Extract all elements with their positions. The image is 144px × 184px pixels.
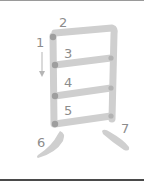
- stroke-3-start: [52, 62, 58, 68]
- stroke-1-start: [50, 34, 56, 40]
- stroke-label-3: 3: [64, 46, 72, 61]
- arrow-down-icon: [39, 52, 45, 77]
- stroke-label-5: 5: [64, 103, 72, 118]
- stroke-label-7: 7: [121, 121, 129, 136]
- stroke-label-2: 2: [59, 15, 67, 30]
- stroke-label-4: 4: [64, 75, 72, 90]
- stroke-5-end: [108, 113, 113, 118]
- stroke-1: [53, 36, 54, 124]
- stroke-4-start: [52, 93, 58, 99]
- kanji-strokes: 1 2 3 4 5 6 7: [0, 0, 144, 184]
- stroke-label-1: 1: [36, 35, 44, 50]
- stroke-label-6: 6: [37, 135, 45, 150]
- stroke-order-diagram: 1 2 3 4 5 6 7: [0, 0, 144, 184]
- stroke-5-start: [52, 121, 58, 127]
- stroke-4-end: [108, 85, 113, 90]
- bottom-border: [0, 179, 144, 181]
- stroke-3-end: [108, 55, 113, 60]
